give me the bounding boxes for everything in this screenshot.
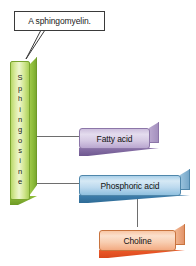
choline-label: Choline bbox=[123, 236, 151, 246]
connector-sphingosine-phosphoric-acid bbox=[31, 183, 80, 184]
sphingosine-letter: e bbox=[18, 177, 22, 187]
sphingosine-letter: p bbox=[18, 84, 22, 94]
sphingosine-side-face bbox=[29, 57, 37, 196]
sphingosine-letter: g bbox=[18, 125, 22, 135]
choline-front-face: Choline bbox=[99, 230, 176, 251]
choline-side-face bbox=[175, 224, 185, 245]
fatty-acid-front-face: Fatty acid bbox=[79, 128, 150, 149]
component-box-choline: Choline bbox=[99, 224, 185, 258]
sphingosine-backbone: S p h i n g o s i n e bbox=[10, 57, 37, 204]
sphingosine-front-face: S p h i n g o s i n e bbox=[10, 61, 30, 200]
phosphoric-acid-label: Phosphoric acid bbox=[101, 181, 160, 191]
callout-pointer-icon bbox=[22, 30, 48, 60]
callout-text: A sphingomyelin. bbox=[28, 17, 91, 26]
sphingosine-letter: i bbox=[19, 105, 21, 115]
phosphoric-acid-bottom-face bbox=[79, 195, 190, 203]
connector-sphingosine-fatty-acid bbox=[31, 136, 80, 137]
phosphoric-acid-front-face: Phosphoric acid bbox=[79, 175, 181, 196]
phosphoric-acid-side-face bbox=[180, 169, 190, 190]
sphingosine-letter: o bbox=[18, 136, 22, 146]
choline-bottom-face bbox=[99, 250, 185, 258]
component-box-fatty-acid: Fatty acid bbox=[79, 122, 159, 156]
sphingosine-letter: n bbox=[18, 115, 22, 125]
sphingomyelin-diagram: A sphingomyelin. S p h i n g o s i n e F… bbox=[0, 0, 196, 266]
fatty-acid-bottom-face bbox=[79, 148, 159, 156]
sphingosine-letter: i bbox=[19, 156, 21, 166]
callout-label: A sphingomyelin. bbox=[14, 11, 105, 31]
fatty-acid-side-face bbox=[149, 122, 159, 143]
sphingosine-letter: n bbox=[18, 167, 22, 177]
sphingosine-letter: s bbox=[18, 146, 22, 156]
sphingosine-letter: S bbox=[17, 73, 22, 83]
component-box-phosphoric-acid: Phosphoric acid bbox=[79, 169, 190, 203]
sphingosine-letter: h bbox=[18, 94, 22, 104]
fatty-acid-label: Fatty acid bbox=[97, 134, 133, 144]
